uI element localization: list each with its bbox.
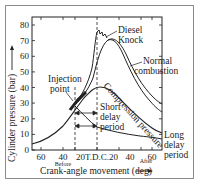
svg-text:period: period [164,150,189,160]
svg-text:60: 60 [37,152,47,162]
svg-text:After: After [140,158,153,164]
svg-text:40: 40 [126,152,136,162]
svg-text:combustion: combustion [134,66,179,76]
y-tick-labels: 0 10 20 30 40 50 60 70 80 [20,20,30,155]
svg-text:80: 80 [20,20,30,30]
svg-text:period: period [100,122,125,132]
svg-text:Diesel: Diesel [118,25,143,35]
svg-text:10: 10 [20,129,30,139]
svg-text:Normal: Normal [143,56,172,66]
injection-segment [70,92,86,110]
y-axis-label: Cylinder pressure (bar) [7,45,18,162]
svg-text:Long: Long [164,130,184,140]
svg-text:point: point [50,84,70,94]
svg-text:Cylinder pressure (bar): Cylinder pressure (bar) [7,74,18,162]
delay-arrows [75,111,97,128]
chart: 0 10 20 30 40 50 60 70 80 Cylinder press… [0,0,198,183]
svg-text:50: 50 [20,67,30,77]
svg-text:Crank-angle movement (deg): Crank-angle movement (deg) [40,166,152,177]
svg-text:20: 20 [20,114,30,124]
svg-text:40: 40 [20,83,30,93]
x-tick-labels: 60 40 20T.D.C.20 40 60 Before After [37,152,158,167]
compression-pressure-curve [32,87,162,144]
svg-text:Injection: Injection [48,74,82,84]
svg-text:60: 60 [20,51,30,61]
diesel-knock-curve [75,30,107,104]
svg-text:20T.D.C.20: 20T.D.C.20 [76,152,119,162]
x-axis-label: Crank-angle movement (deg) [40,166,153,177]
svg-text:Knock: Knock [118,35,144,45]
svg-text:0: 0 [25,145,30,155]
svg-text:delay: delay [164,140,185,150]
svg-text:delay: delay [100,112,121,122]
svg-text:30: 30 [20,98,30,108]
svg-text:70: 70 [20,36,30,46]
